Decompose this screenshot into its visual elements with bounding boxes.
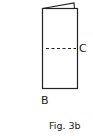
- label-b: B: [41, 95, 49, 106]
- folded-paper-diagram: [0, 0, 93, 136]
- label-c: C: [79, 43, 87, 54]
- top-fold-flap: [43, 3, 75, 9]
- figure-caption: Fig. 3b: [49, 121, 81, 131]
